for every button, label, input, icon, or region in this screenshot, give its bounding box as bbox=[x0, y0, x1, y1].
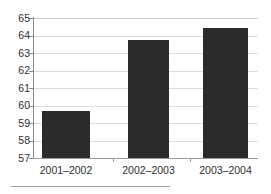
bar bbox=[128, 40, 169, 158]
y-axis-tick-label: 62 bbox=[4, 65, 30, 76]
y-axis-tick-label: 63 bbox=[4, 48, 30, 59]
y-axis-tick-label: 59 bbox=[4, 118, 30, 129]
bar bbox=[42, 111, 90, 158]
y-axis-tick-label: 64 bbox=[4, 30, 30, 41]
footer-divider bbox=[11, 186, 170, 187]
x-axis-category-label: 2001–2002 bbox=[34, 164, 98, 176]
x-axis-tick-mark bbox=[113, 158, 114, 162]
y-axis-tick-label: 58 bbox=[4, 135, 30, 146]
y-axis-tick-label: 65 bbox=[4, 13, 30, 24]
y-axis-tick-label: 57 bbox=[4, 153, 30, 164]
y-axis-tick-label: 60 bbox=[4, 100, 30, 111]
x-axis-tick-mark bbox=[190, 158, 191, 162]
x-axis-line bbox=[33, 158, 258, 159]
bar bbox=[203, 28, 248, 158]
plot-area bbox=[33, 18, 258, 158]
y-axis-line bbox=[33, 17, 34, 159]
bar-chart-figure: 575859606162636465 2001–20022002–2003200… bbox=[0, 0, 271, 194]
x-axis-category-label: 2002–2003 bbox=[117, 164, 181, 176]
x-axis-category-label: 2003–2004 bbox=[194, 164, 258, 176]
y-axis-tick-label: 61 bbox=[4, 83, 30, 94]
gridline bbox=[33, 18, 258, 19]
